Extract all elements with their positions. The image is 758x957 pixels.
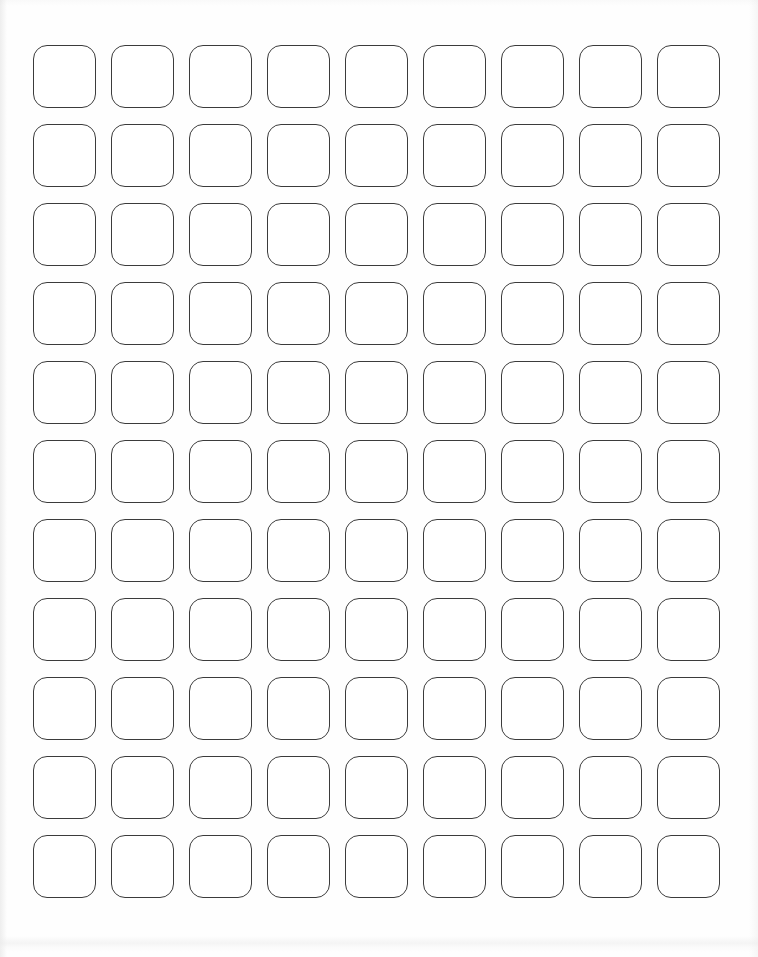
label-cell[interactable] — [579, 835, 642, 898]
label-cell[interactable] — [501, 45, 564, 108]
label-cell[interactable] — [579, 124, 642, 187]
label-grid — [33, 45, 720, 898]
label-cell[interactable] — [33, 124, 96, 187]
label-cell[interactable] — [501, 677, 564, 740]
label-cell[interactable] — [345, 203, 408, 266]
label-cell[interactable] — [423, 282, 486, 345]
label-cell[interactable] — [657, 282, 720, 345]
label-cell[interactable] — [189, 45, 252, 108]
label-cell[interactable] — [345, 361, 408, 424]
label-cell[interactable] — [33, 519, 96, 582]
label-cell[interactable] — [501, 519, 564, 582]
label-cell[interactable] — [345, 756, 408, 819]
label-cell[interactable] — [189, 203, 252, 266]
label-cell[interactable] — [189, 440, 252, 503]
label-cell[interactable] — [579, 45, 642, 108]
label-cell[interactable] — [267, 282, 330, 345]
label-cell[interactable] — [267, 519, 330, 582]
label-cell[interactable] — [423, 361, 486, 424]
label-cell[interactable] — [657, 203, 720, 266]
label-cell[interactable] — [423, 835, 486, 898]
label-cell[interactable] — [33, 677, 96, 740]
label-cell[interactable] — [579, 519, 642, 582]
label-cell[interactable] — [111, 598, 174, 661]
label-cell[interactable] — [501, 835, 564, 898]
label-cell[interactable] — [345, 519, 408, 582]
label-cell[interactable] — [501, 756, 564, 819]
label-cell[interactable] — [657, 598, 720, 661]
label-cell[interactable] — [501, 598, 564, 661]
label-cell[interactable] — [33, 45, 96, 108]
label-cell[interactable] — [501, 440, 564, 503]
label-cell[interactable] — [423, 598, 486, 661]
label-cell[interactable] — [501, 282, 564, 345]
label-cell[interactable] — [111, 282, 174, 345]
label-cell[interactable] — [423, 124, 486, 187]
label-cell[interactable] — [189, 124, 252, 187]
label-cell[interactable] — [345, 598, 408, 661]
label-cell[interactable] — [423, 519, 486, 582]
label-cell[interactable] — [111, 203, 174, 266]
label-cell[interactable] — [111, 835, 174, 898]
label-cell[interactable] — [33, 361, 96, 424]
label-cell[interactable] — [33, 282, 96, 345]
label-cell[interactable] — [111, 361, 174, 424]
label-cell[interactable] — [267, 361, 330, 424]
label-cell[interactable] — [189, 282, 252, 345]
label-cell[interactable] — [189, 519, 252, 582]
label-cell[interactable] — [189, 835, 252, 898]
label-cell[interactable] — [657, 124, 720, 187]
label-cell[interactable] — [267, 440, 330, 503]
label-cell[interactable] — [267, 835, 330, 898]
label-cell[interactable] — [657, 835, 720, 898]
label-cell[interactable] — [579, 756, 642, 819]
label-cell[interactable] — [267, 124, 330, 187]
label-cell[interactable] — [501, 361, 564, 424]
label-cell[interactable] — [657, 45, 720, 108]
label-cell[interactable] — [111, 45, 174, 108]
label-cell[interactable] — [657, 519, 720, 582]
label-cell[interactable] — [189, 598, 252, 661]
label-cell[interactable] — [33, 203, 96, 266]
label-cell[interactable] — [579, 203, 642, 266]
label-cell[interactable] — [345, 677, 408, 740]
label-cell[interactable] — [657, 677, 720, 740]
label-cell[interactable] — [501, 203, 564, 266]
label-cell[interactable] — [267, 45, 330, 108]
label-cell[interactable] — [423, 440, 486, 503]
label-cell[interactable] — [189, 361, 252, 424]
label-cell[interactable] — [111, 519, 174, 582]
label-cell[interactable] — [579, 282, 642, 345]
label-cell[interactable] — [345, 124, 408, 187]
label-cell[interactable] — [657, 756, 720, 819]
label-cell[interactable] — [345, 282, 408, 345]
label-cell[interactable] — [33, 598, 96, 661]
label-cell[interactable] — [111, 124, 174, 187]
label-cell[interactable] — [657, 361, 720, 424]
label-cell[interactable] — [345, 45, 408, 108]
label-cell[interactable] — [345, 440, 408, 503]
label-cell[interactable] — [111, 440, 174, 503]
label-cell[interactable] — [501, 124, 564, 187]
label-cell[interactable] — [657, 440, 720, 503]
label-cell[interactable] — [267, 756, 330, 819]
label-cell[interactable] — [423, 756, 486, 819]
label-cell[interactable] — [423, 45, 486, 108]
label-cell[interactable] — [579, 361, 642, 424]
label-cell[interactable] — [33, 440, 96, 503]
label-cell[interactable] — [345, 835, 408, 898]
label-cell[interactable] — [33, 835, 96, 898]
label-cell[interactable] — [423, 677, 486, 740]
label-cell[interactable] — [111, 677, 174, 740]
label-cell[interactable] — [111, 756, 174, 819]
label-cell[interactable] — [33, 756, 96, 819]
label-cell[interactable] — [267, 598, 330, 661]
label-cell[interactable] — [423, 203, 486, 266]
label-cell[interactable] — [267, 677, 330, 740]
label-cell[interactable] — [189, 677, 252, 740]
label-cell[interactable] — [267, 203, 330, 266]
label-cell[interactable] — [579, 677, 642, 740]
label-cell[interactable] — [579, 440, 642, 503]
label-cell[interactable] — [189, 756, 252, 819]
label-cell[interactable] — [579, 598, 642, 661]
